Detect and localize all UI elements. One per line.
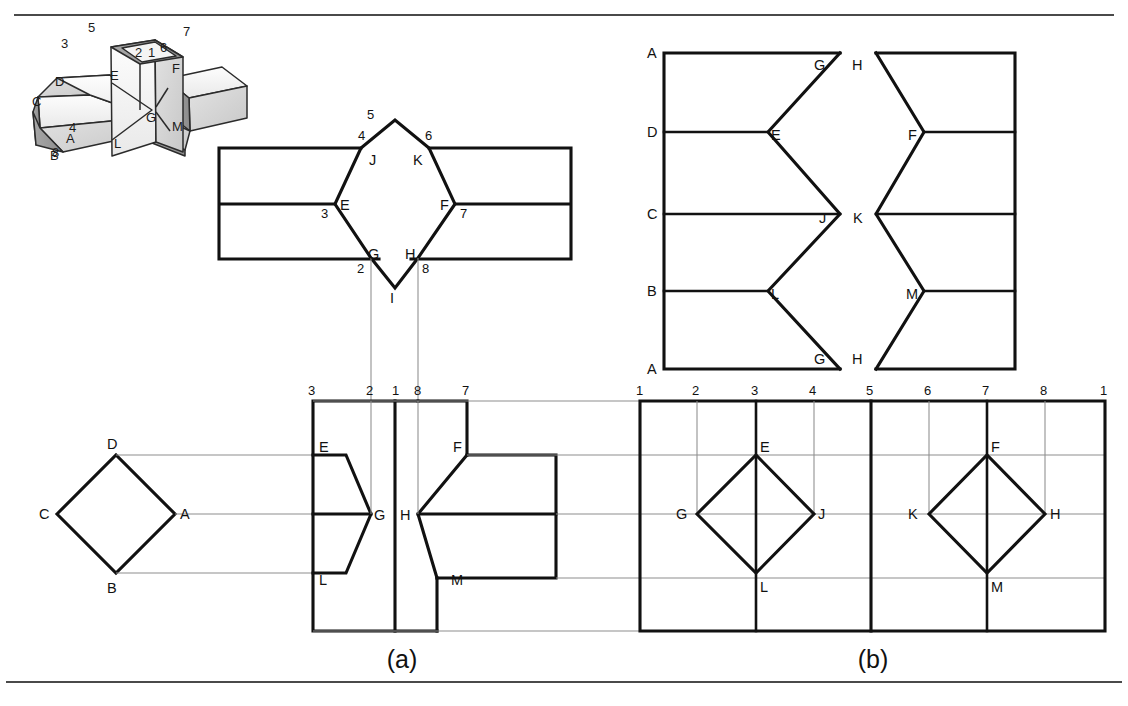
drawing-sheet: 5 3 2 1 6 7 4 8 E G F M L D C A B 5: [0, 0, 1128, 706]
pictorial-label-G: G: [146, 110, 156, 125]
pictorial-label-F: F: [172, 61, 180, 76]
pictorial-label-B: B: [50, 148, 59, 163]
pictorial-label-L: L: [114, 136, 121, 151]
pictorial-label-C: C: [32, 94, 41, 109]
pictorial-label-M: M: [172, 119, 183, 134]
pictorial-label-A: A: [66, 131, 75, 146]
pictorial-label-1: 1: [148, 45, 155, 60]
pictorial-illustration: 5 3 2 1 6 7 4 8 E G F M L D C A B: [0, 0, 1128, 706]
pictorial-label-6: 6: [160, 40, 167, 55]
pictorial-label-E: E: [110, 68, 119, 83]
pictorial-label-D: D: [55, 74, 64, 89]
pictorial-label-7: 7: [183, 24, 190, 39]
pictorial-label-3: 3: [61, 36, 68, 51]
pictorial-label-2: 2: [135, 45, 142, 60]
pictorial-label-5: 5: [88, 20, 95, 35]
